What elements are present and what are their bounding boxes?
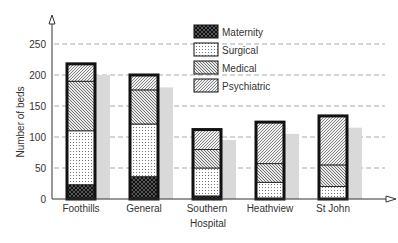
legend-item: Medical <box>194 61 256 74</box>
bar-segment-psychiatric <box>130 75 158 90</box>
comparison-bar <box>158 87 173 199</box>
bar-segment-medical <box>193 149 221 168</box>
x-axis-arrow-icon <box>386 196 396 202</box>
bar-segment-psychiatric <box>319 116 347 165</box>
y-tick-label: 200 <box>29 70 46 81</box>
y-tick-label: 250 <box>29 39 46 50</box>
bar-segment-surgical <box>193 168 221 196</box>
y-tick-label: 100 <box>29 132 46 143</box>
y-tick-label: 150 <box>29 101 46 112</box>
y-tick-labels: 050100150200250 <box>29 39 46 205</box>
legend-label: Surgical <box>222 45 258 56</box>
bar-segment-psychiatric <box>67 64 95 81</box>
x-axis-label: Hospital <box>190 218 226 229</box>
x-tick-label: St John <box>316 203 350 214</box>
legend-item: Maternity <box>194 25 263 38</box>
legend-swatch <box>194 79 218 92</box>
legend-swatch <box>194 25 218 38</box>
bar-segment-psychiatric <box>193 130 221 150</box>
bar-segment-surgical <box>319 187 347 199</box>
bar-segment-medical <box>67 81 95 131</box>
x-tick-label: General <box>126 203 162 214</box>
x-tick-label: Foothills <box>62 203 99 214</box>
x-tick-label: Heathview <box>247 203 294 214</box>
bar-segment-maternity <box>67 185 95 199</box>
stacked-bar-chart: 050100150200250 FoothillsGeneralSouthern… <box>0 0 398 243</box>
legend-label: Maternity <box>222 27 263 38</box>
bar-segment-medical <box>319 165 347 187</box>
comparison-bar <box>221 140 236 199</box>
legend: MaternitySurgicalMedicalPsychiatric <box>194 25 270 92</box>
comparison-bar <box>95 75 110 199</box>
y-axis-arrow-icon <box>49 15 55 24</box>
y-tick-label: 0 <box>40 194 46 205</box>
bar-segment-surgical <box>256 182 284 199</box>
bar-segment-psychiatric <box>256 122 284 164</box>
legend-item: Surgical <box>194 43 258 56</box>
x-tick-labels: FoothillsGeneralSouthernHeathviewSt John <box>62 203 350 214</box>
y-tick-label: 50 <box>35 163 47 174</box>
bar-segment-medical <box>256 164 284 183</box>
bar-segment-surgical <box>67 131 95 185</box>
legend-swatch <box>194 43 218 56</box>
x-tick-label: Southern <box>187 203 228 214</box>
legend-swatch <box>194 61 218 74</box>
bar-segment-maternity <box>130 177 158 199</box>
legend-item: Psychiatric <box>194 79 270 92</box>
legend-label: Psychiatric <box>222 81 270 92</box>
y-axis-label: Number of beds <box>15 86 26 157</box>
bar-segment-medical <box>130 90 158 124</box>
bar-segment-surgical <box>130 124 158 177</box>
legend-label: Medical <box>222 63 256 74</box>
comparison-bar <box>284 134 299 199</box>
comparison-bar <box>347 128 362 199</box>
